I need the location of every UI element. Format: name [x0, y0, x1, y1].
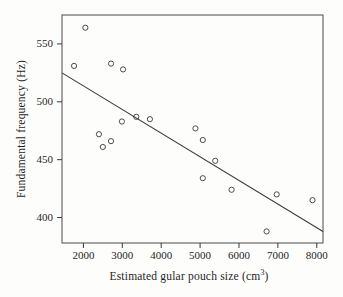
y-tick-label: 400	[37, 211, 54, 223]
x-tick-label: 2000	[72, 249, 95, 261]
x-axis-label-text: Estimated gular pouch size (cm	[109, 270, 260, 282]
data-point	[200, 176, 205, 181]
x-tick-label: 4000	[150, 249, 173, 261]
x-tick-label: 7000	[267, 249, 290, 261]
data-point	[274, 192, 279, 197]
x-tick-label: 3000	[111, 249, 134, 261]
data-point	[310, 198, 315, 203]
data-point	[71, 63, 76, 68]
data-point	[96, 132, 101, 137]
y-tick-label: 500	[37, 95, 54, 107]
x-tick-label: 5000	[189, 249, 212, 261]
x-tick-label: 6000	[228, 249, 251, 261]
data-point	[264, 229, 269, 234]
trend-line	[62, 73, 323, 232]
data-point	[100, 144, 105, 149]
data-point	[119, 119, 124, 124]
data-point	[108, 61, 113, 66]
data-point	[229, 187, 234, 192]
x-axis-label: Estimated gular pouch size (cm3)	[109, 270, 268, 282]
x-tick-label: 8000	[306, 249, 329, 261]
scatter-figure: 2000300040005000600070008000400450500550…	[0, 0, 343, 297]
x-axis-label-close: )	[265, 270, 269, 282]
y-tick-label: 450	[37, 153, 54, 165]
y-axis-label: Fundamental frequency (Hz)	[15, 60, 27, 198]
data-point	[213, 158, 218, 163]
data-point	[108, 139, 113, 144]
data-point	[200, 137, 205, 142]
data-point	[83, 25, 88, 30]
scatter-plot: 2000300040005000600070008000400450500550	[0, 0, 343, 297]
data-point	[193, 126, 198, 131]
data-point	[120, 67, 125, 72]
y-tick-label: 550	[37, 37, 54, 49]
data-point	[147, 117, 152, 122]
